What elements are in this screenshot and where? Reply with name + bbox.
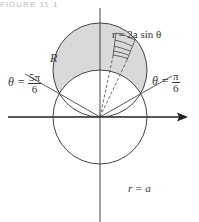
polar-diagram bbox=[0, 0, 199, 222]
label-region-r: R bbox=[50, 52, 57, 64]
label-right-ray: θ = π 6 bbox=[152, 71, 180, 94]
label-left-ray: θ = 5π 6 bbox=[8, 72, 41, 95]
label-upper-curve: r = 2a sin θ bbox=[112, 29, 161, 40]
label-lower-curve: r = a bbox=[128, 183, 151, 194]
